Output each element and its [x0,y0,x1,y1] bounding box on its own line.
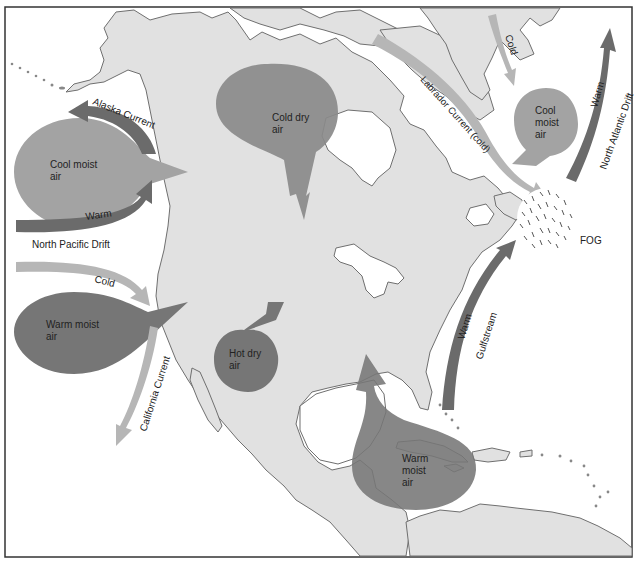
air-mass-current-map: Cool moist air Warm moist air Cold dry a… [0,0,636,561]
air-mass-label: air [229,360,241,371]
air-mass-label: moist [402,465,426,476]
current-label: North Pacific Drift [32,239,110,250]
air-mass-label: air [402,477,414,488]
air-mass-label: air [535,129,547,140]
air-mass-label: Cool moist [50,159,97,170]
air-mass-label: Cold dry [272,112,309,123]
air-mass-label: Hot dry [229,348,261,359]
air-mass-label: air [46,331,58,342]
air-mass-label: air [272,124,284,135]
air-mass-label: Warm [402,453,428,464]
air-mass-label: air [50,171,62,182]
air-mass-label: moist [535,117,559,128]
air-mass-label: Cool [535,105,556,116]
air-mass-label: Warm moist [46,319,99,330]
fog-label: FOG [580,235,602,246]
